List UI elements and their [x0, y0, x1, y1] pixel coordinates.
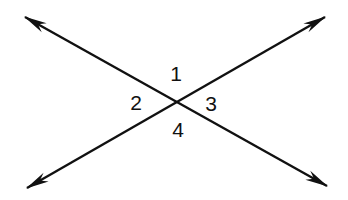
geometry-figure: 1 2 3 4: [0, 0, 348, 200]
intersecting-lines-svg: [0, 0, 348, 200]
angle-label-2: 2: [130, 92, 142, 113]
angle-label-4: 4: [172, 119, 184, 140]
angle-label-1: 1: [170, 63, 182, 84]
angle-label-3: 3: [205, 93, 217, 114]
